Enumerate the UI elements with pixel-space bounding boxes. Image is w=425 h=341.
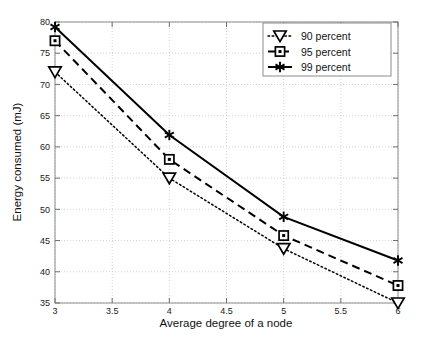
y-axis-title: Energy consumed (mJ) [11, 102, 23, 221]
chart-figure: 33.544.555.56 35404550556065707580 Avera… [0, 0, 425, 341]
y-tick-label: 55 [40, 173, 50, 183]
y-tick-label: 80 [40, 17, 50, 27]
y-tick-label: 75 [40, 48, 50, 58]
y-tick-label: 70 [40, 80, 50, 90]
legend-marker [275, 47, 284, 56]
x-tick-label: 4.5 [220, 306, 233, 316]
y-tick-label: 65 [40, 111, 50, 121]
y-tick-label: 50 [40, 205, 50, 215]
x-axis-title: Average degree of a node [160, 317, 293, 329]
x-tick-label: 5.5 [335, 306, 348, 316]
x-tick-label: 4 [167, 306, 172, 316]
x-tick-label: 5 [281, 306, 286, 316]
energy-vs-degree-line-chart: 33.544.555.56 35404550556065707580 Avera… [0, 0, 425, 341]
data-point-marker [165, 155, 174, 164]
y-tick-label: 35 [40, 298, 50, 308]
marker-square-center [282, 234, 285, 237]
legend-item-label: 95 percent [301, 46, 351, 58]
y-tick-label: 60 [40, 142, 50, 152]
legend-item[interactable]: 99 percent [268, 61, 351, 73]
marker-square-center [168, 158, 171, 161]
legend-item[interactable]: 95 percent [268, 46, 351, 58]
legend-item[interactable]: 90 percent [268, 30, 351, 42]
legend-item-label: 99 percent [301, 61, 351, 73]
marker-square-center [397, 284, 400, 287]
data-point-marker [279, 231, 288, 240]
data-point-marker [50, 36, 59, 45]
y-tick-label: 45 [40, 236, 50, 246]
legend-entries: 90 percent95 percent99 percent [268, 30, 351, 73]
x-tick-label: 3.5 [106, 306, 119, 316]
data-point-marker [393, 281, 402, 290]
marker-square-center [279, 50, 282, 53]
y-tick-label: 40 [40, 267, 50, 277]
legend-item-label: 90 percent [301, 30, 351, 42]
x-tick-label: 3 [52, 306, 57, 316]
marker-square-center [54, 39, 57, 42]
legend: 90 percent95 percent99 percent [263, 23, 391, 76]
